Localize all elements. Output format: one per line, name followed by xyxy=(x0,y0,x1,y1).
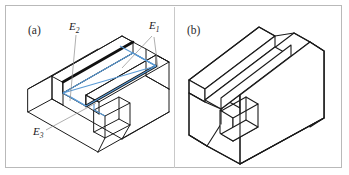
figure-frame: (a) xyxy=(5,5,342,168)
leader-e3 xyxy=(46,103,96,130)
block-a-wireframe xyxy=(28,36,169,152)
panel-a-drawing: (a) xyxy=(6,6,181,169)
leader-e2 xyxy=(70,35,76,101)
panel-b: (b) xyxy=(174,6,343,169)
block-b-solid xyxy=(189,27,324,164)
panel-a: (a) xyxy=(6,6,181,169)
label-e3: E3 xyxy=(32,125,44,140)
panel-b-drawing: (b) xyxy=(174,6,343,169)
leader-e1-upper xyxy=(122,36,152,68)
label-e2: E2 xyxy=(68,20,80,35)
panel-a-caption: (a) xyxy=(28,24,41,37)
panel-b-caption: (b) xyxy=(187,24,201,37)
label-e1: E1 xyxy=(148,19,159,34)
